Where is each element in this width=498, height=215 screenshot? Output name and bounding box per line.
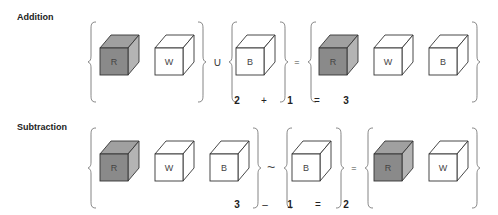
- cube-letter: R: [330, 57, 337, 67]
- cube-letter: B: [303, 163, 309, 173]
- cube-w: [429, 141, 468, 181]
- equation-term: 3: [234, 199, 240, 210]
- cube-letter: B: [221, 163, 227, 173]
- equals-operator: =: [351, 163, 356, 173]
- cube-w: [155, 141, 194, 181]
- difference-operator: ~: [267, 159, 275, 175]
- equation-result: 3: [343, 95, 349, 106]
- equation-term: 2: [234, 95, 240, 106]
- cube-letter: W: [384, 57, 393, 67]
- cube-w: [374, 35, 413, 75]
- subtraction-row: [88, 128, 480, 208]
- union-operator: ∪: [213, 55, 222, 69]
- equation-operator: =: [315, 199, 321, 210]
- cube-b: [236, 35, 275, 75]
- cube-letter: B: [440, 57, 446, 67]
- cube-letter: W: [439, 163, 448, 173]
- cube-r: [319, 35, 358, 75]
- cube-r: [100, 35, 139, 75]
- equation-operator: +: [261, 95, 267, 106]
- cube-letter: R: [385, 163, 392, 173]
- cube-w: [155, 35, 194, 75]
- set-diagram: [0, 0, 498, 215]
- cube-letter: W: [165, 57, 174, 67]
- cube-b: [429, 35, 468, 75]
- cube-letter: R: [111, 57, 118, 67]
- equation-term: 1: [287, 95, 293, 106]
- equation-term: 1: [287, 199, 293, 210]
- equation-operator: =: [314, 95, 320, 106]
- cube-r: [374, 141, 413, 181]
- cube-b: [292, 141, 331, 181]
- addition-row: [88, 22, 480, 102]
- cube-b: [210, 141, 249, 181]
- cube-letter: R: [111, 163, 118, 173]
- equation-result: 2: [343, 199, 349, 210]
- cube-letter: B: [247, 57, 253, 67]
- equation-operator: –: [262, 199, 268, 210]
- cube-r: [100, 141, 139, 181]
- equals-operator: =: [294, 57, 299, 67]
- cube-letter: W: [165, 163, 174, 173]
